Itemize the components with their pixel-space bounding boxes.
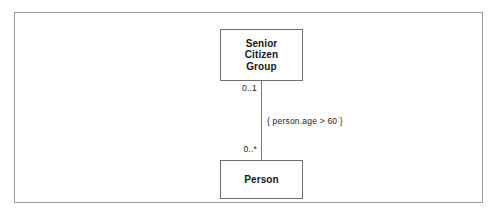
multiplicity-target: 0..*: [211, 144, 257, 154]
uml-class-diagram: Senior Citizen Group 0..1 { person.age >…: [0, 0, 499, 215]
association-line: [261, 81, 262, 160]
class-name-senior-citizen-group: Senior Citizen Group: [245, 38, 278, 73]
multiplicity-source: 0..1: [211, 83, 257, 93]
diagram-frame: Senior Citizen Group 0..1 { person.age >…: [14, 12, 483, 203]
class-box-person[interactable]: Person: [220, 160, 303, 199]
class-box-senior-citizen-group[interactable]: Senior Citizen Group: [220, 29, 303, 81]
association-constraint: { person.age > 60 }: [267, 116, 343, 126]
class-name-person: Person: [244, 174, 279, 186]
